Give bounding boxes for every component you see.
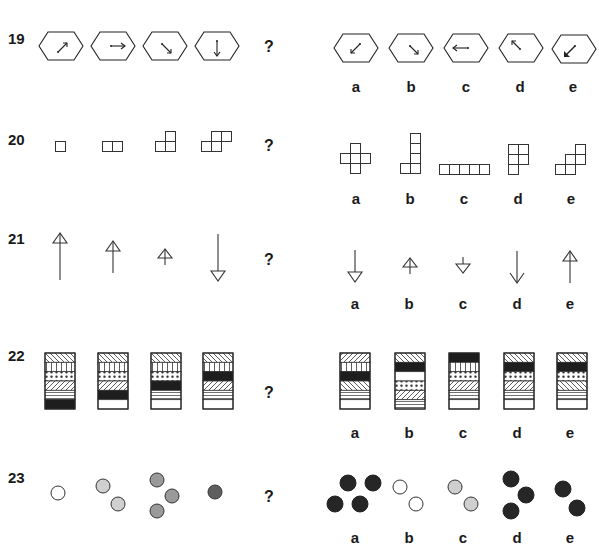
q23-option-b-circles-icon[interactable]	[392, 479, 426, 515]
q19-figure-1-hexagon-arrow-icon	[38, 31, 84, 61]
band-horizontal	[340, 390, 370, 399]
band-dots	[504, 372, 534, 381]
q22-option-d-striped-stack-icon[interactable]	[503, 352, 535, 410]
q19-option-e-hexagon-arrow-icon[interactable]	[551, 34, 597, 64]
band-horizontal	[203, 390, 233, 399]
band-white	[340, 400, 370, 409]
q23-figure-1-circles-icon	[50, 485, 66, 501]
band-black	[557, 362, 587, 371]
band-vertical	[151, 362, 181, 371]
q23-option-c-label: c	[453, 529, 473, 546]
question-number-22: 22	[8, 347, 25, 364]
q23-option-e-label: e	[560, 529, 580, 546]
band-vertical	[449, 362, 479, 371]
band-horizontal	[151, 390, 181, 399]
band-horizontal	[557, 390, 587, 399]
q19-question-mark: ?	[259, 38, 279, 56]
band-diag-fwd	[449, 381, 479, 390]
q23-figure-2-circles-icon	[95, 478, 129, 514]
band-diag-back	[45, 353, 75, 362]
band-diag-fwd	[504, 381, 534, 390]
q19-option-a-hexagon-arrow-icon[interactable]	[333, 33, 379, 63]
q23-question-mark: ?	[259, 488, 279, 506]
q22-option-c-striped-stack-icon[interactable]	[448, 352, 480, 410]
q21-option-b-label: b	[399, 295, 419, 312]
q22-option-a-striped-stack-icon[interactable]	[339, 352, 371, 410]
q20-figure-1-squares-icon	[55, 141, 67, 153]
band-diag-back	[98, 353, 128, 362]
band-black	[151, 381, 181, 390]
q21-option-a-arrow-down-icon[interactable]	[345, 249, 365, 284]
q21-option-c-arrow-down-icon[interactable]	[453, 256, 473, 276]
q21-option-b-arrow-up-icon[interactable]	[400, 257, 420, 277]
band-diag-fwd	[340, 353, 370, 362]
q22-option-a-label: a	[345, 424, 365, 441]
q22-option-d-label: d	[507, 424, 527, 441]
q23-figure-4-circles-icon	[207, 484, 223, 500]
q20-option-d-label: d	[508, 190, 528, 207]
q19-option-c-hexagon-arrow-icon[interactable]	[443, 33, 489, 63]
q19-figure-4-hexagon-arrow-icon	[194, 31, 240, 61]
band-black	[98, 390, 128, 399]
q20-option-a-squares-icon[interactable]	[340, 143, 372, 175]
q21-option-e-label: e	[560, 295, 580, 312]
q20-figure-4-squares-icon	[201, 131, 235, 153]
question-number-19: 19	[8, 30, 25, 47]
band-white	[395, 372, 425, 381]
q23-option-e-circles-icon[interactable]	[555, 480, 589, 520]
band-diag-fwd	[98, 381, 128, 390]
q21-option-c-label: c	[453, 295, 473, 312]
band-dots	[98, 372, 128, 381]
band-diag-back	[203, 353, 233, 362]
band-dots	[449, 372, 479, 381]
q19-option-b-label: b	[401, 78, 421, 95]
q19-figure-2-hexagon-arrow-icon	[90, 31, 136, 61]
band-black	[449, 353, 479, 362]
band-diag-fwd	[203, 381, 233, 390]
q21-figure-1-arrow-up-icon	[50, 232, 70, 282]
band-diag-back	[340, 381, 370, 390]
band-vertical	[45, 362, 75, 371]
q21-option-d-arrow-down-icon[interactable]	[507, 250, 527, 285]
q21-question-mark: ?	[259, 251, 279, 269]
band-diag-back	[504, 353, 534, 362]
band-diag-fwd	[45, 381, 75, 390]
q20-option-e-squares-icon[interactable]	[555, 144, 587, 176]
q22-option-b-label: b	[399, 424, 419, 441]
q23-option-d-circles-icon[interactable]	[502, 470, 536, 520]
band-dots	[45, 372, 75, 381]
q20-option-b-label: b	[400, 190, 420, 207]
q23-option-b-label: b	[399, 529, 419, 546]
band-black	[203, 372, 233, 381]
band-vertical	[340, 362, 370, 371]
q22-figure-3-striped-stack-icon	[150, 352, 182, 410]
band-vertical	[98, 362, 128, 371]
band-white	[98, 400, 128, 409]
q21-figure-4-arrow-down-icon	[208, 233, 228, 283]
band-black	[45, 400, 75, 409]
q23-option-a-circles-icon[interactable]	[326, 474, 384, 514]
q22-option-b-striped-stack-icon[interactable]	[394, 352, 426, 410]
q23-figure-3-circles-icon	[148, 472, 182, 520]
band-diag-back	[557, 353, 587, 362]
band-horizontal	[45, 390, 75, 399]
q20-option-e-label: e	[561, 190, 581, 207]
band-dots	[151, 372, 181, 381]
q21-option-d-label: d	[507, 295, 527, 312]
q19-option-b-hexagon-arrow-icon[interactable]	[388, 33, 434, 63]
q20-option-c-squares-icon[interactable]	[439, 164, 491, 176]
q23-option-c-circles-icon[interactable]	[447, 479, 481, 515]
q19-option-d-hexagon-arrow-icon[interactable]	[498, 33, 544, 63]
band-dots	[395, 381, 425, 390]
q20-option-a-label: a	[346, 190, 366, 207]
q22-option-e-striped-stack-icon[interactable]	[556, 352, 588, 410]
q21-option-e-arrow-up-icon[interactable]	[560, 250, 580, 285]
q20-question-mark: ?	[259, 137, 279, 155]
q20-option-d-squares-icon[interactable]	[508, 144, 530, 176]
q22-figure-2-striped-stack-icon	[97, 352, 129, 410]
q19-option-c-label: c	[456, 78, 476, 95]
band-horizontal	[504, 390, 534, 399]
band-black	[395, 362, 425, 371]
q23-option-a-label: a	[345, 529, 365, 546]
q20-option-b-squares-icon[interactable]	[400, 133, 422, 175]
